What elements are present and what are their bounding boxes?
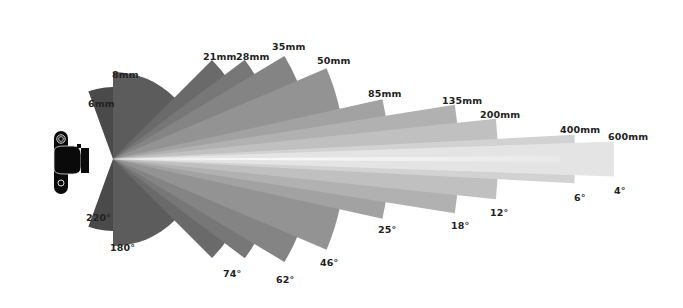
- focal-label-85mm: 85mm: [368, 88, 401, 99]
- angle-label-6mm: 220°: [86, 212, 111, 223]
- focal-label-200mm: 200mm: [480, 109, 520, 120]
- angle-label-85mm: 25°: [378, 224, 396, 235]
- focal-label-600mm: 600mm: [608, 131, 648, 142]
- angle-label-135mm: 18°: [451, 220, 469, 231]
- focal-label-28mm: 28mm: [236, 51, 269, 62]
- focal-label-21mm: 21mm: [203, 51, 236, 62]
- angle-label-28mm: 74°: [223, 268, 241, 279]
- focal-label-35mm: 35mm: [272, 41, 305, 52]
- angle-label-8mm: 180°: [110, 242, 135, 253]
- angle-label-35mm: 62°: [276, 274, 294, 285]
- focal-label-135mm: 135mm: [442, 95, 482, 106]
- angle-label-400mm: 6°: [574, 192, 586, 203]
- focal-label-400mm: 400mm: [560, 124, 600, 135]
- focal-length-diagram: [0, 0, 683, 308]
- angle-label-50mm: 46°: [320, 257, 338, 268]
- focal-label-8mm: 8mm: [112, 69, 139, 80]
- focal-label-6mm: 6mm: [88, 98, 115, 109]
- camera-top-view-icon: [54, 131, 89, 194]
- focal-label-50mm: 50mm: [317, 55, 350, 66]
- angle-label-600mm: 4°: [614, 185, 626, 196]
- angle-label-200mm: 12°: [490, 207, 508, 218]
